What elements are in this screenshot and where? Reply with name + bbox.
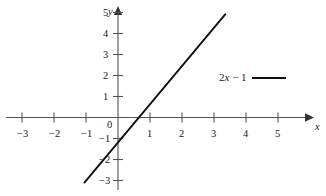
y-axis-arrowhead <box>114 6 122 15</box>
x-tick-label-pos2: 2 <box>179 129 184 140</box>
origin-label: 0 <box>107 120 112 131</box>
y-tick-label-pos3: 3 <box>103 50 108 61</box>
x-tick-label-neg3: −3 <box>17 129 28 140</box>
legend-operator: − <box>229 71 241 83</box>
y-tick-label-neg1: −1 <box>99 134 110 145</box>
y-tick-label-neg3: −3 <box>99 176 110 187</box>
y-tick-label-pos1: 1 <box>103 92 108 103</box>
x-tick-label-pos3: 3 <box>211 129 216 140</box>
y-tick-label-pos4: 4 <box>103 29 108 40</box>
x-axis-label: x <box>315 122 320 133</box>
x-axis-arrowhead <box>305 113 314 122</box>
graph-figure: −3 −2 −1 1 2 3 4 5 0 5 4 3 2 1 −1 −2 −3 … <box>0 0 326 196</box>
legend: 2x − 1 <box>219 72 286 83</box>
legend-line-swatch <box>252 77 286 79</box>
y-axis-label: y <box>108 7 113 18</box>
x-tick-label-pos1: 1 <box>147 129 152 140</box>
legend-constant: 1 <box>241 71 247 83</box>
legend-label: 2x − 1 <box>219 72 247 83</box>
plot-canvas <box>0 0 326 196</box>
x-tick-label-neg2: −2 <box>49 129 60 140</box>
x-tick-label-pos4: 4 <box>243 129 248 140</box>
x-tick-label-pos5: 5 <box>275 129 280 140</box>
x-tick-label-neg1: −1 <box>81 129 92 140</box>
y-tick-label-pos2: 2 <box>103 71 108 82</box>
y-tick-label-neg2: −2 <box>99 155 110 166</box>
